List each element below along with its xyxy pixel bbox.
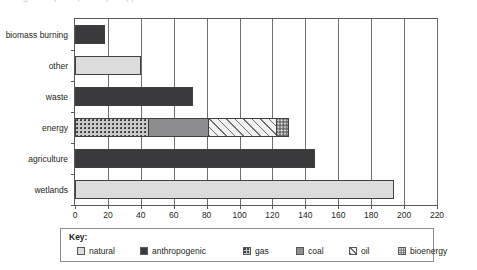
y-axis-category-label: energy (42, 123, 68, 133)
y-axis-category-label: biomass burning (6, 30, 68, 40)
gridline (305, 19, 306, 205)
y-axis-category-label: other (49, 61, 68, 71)
gridline (207, 19, 208, 205)
legend-item-label: oil (361, 246, 370, 256)
bar-energy (75, 118, 292, 137)
legend-swatch-coal-icon (296, 247, 304, 255)
x-axis-tick-label: 220 (422, 210, 452, 220)
gridline (272, 19, 273, 205)
bar-segment-anthropogenic (75, 87, 193, 106)
legend-item-bioenergy[interactable]: bioenergy (398, 246, 447, 256)
bar-segment-anthropogenic (75, 25, 105, 44)
legend-swatch-anthropogenic-icon (140, 247, 148, 255)
chart-plot-area: biomass burningotherwasteenergyagricultu… (74, 18, 438, 206)
y-axis-tick (71, 174, 75, 175)
x-axis-tick-label: 60 (159, 210, 189, 220)
x-axis-tick (108, 205, 109, 209)
gridline (141, 19, 142, 205)
legend-item-label: coal (308, 246, 324, 256)
legend-item-label: natural (89, 246, 115, 256)
legend-swatch-natural-icon (77, 247, 85, 255)
bar-waste (75, 87, 193, 106)
bar-segment-bioenergy (276, 118, 289, 137)
x-axis-tick-label: 0 (60, 210, 90, 220)
bar-other (75, 56, 141, 75)
x-axis-tick-label: 120 (257, 210, 287, 220)
x-axis-tick (371, 205, 372, 209)
y-axis-category-label: waste (46, 92, 68, 102)
gridline (404, 19, 405, 205)
x-axis-tick-label: 200 (389, 210, 419, 220)
x-axis-tick (437, 205, 438, 209)
x-axis-tick-label: 80 (192, 210, 222, 220)
legend-item-coal[interactable]: coal (296, 246, 324, 256)
x-axis-tick-label: 100 (225, 210, 255, 220)
legend-swatch-gas-icon (243, 247, 251, 255)
legend-item-oil[interactable]: oil (349, 246, 370, 256)
x-axis-tick (272, 205, 273, 209)
legend-title: Key: (69, 232, 433, 243)
x-axis-tick (240, 205, 241, 209)
x-axis-tick (75, 205, 76, 209)
bar-wetlands (75, 180, 394, 199)
y-axis-category-label: wetlands (34, 185, 68, 195)
bar-segment-gas (75, 118, 149, 137)
gridline (437, 19, 438, 205)
legend-item-label: anthropogenic (152, 246, 206, 256)
x-axis-tick-label: 180 (356, 210, 386, 220)
gridline (338, 19, 339, 205)
bar-segment-anthropogenic (75, 149, 315, 168)
bar-agriculture (75, 149, 315, 168)
x-axis-tick-label: 140 (290, 210, 320, 220)
legend-item-natural[interactable]: natural (77, 246, 115, 256)
bar-segment-oil (208, 118, 277, 137)
x-axis-tick-label: 160 (323, 210, 353, 220)
bar-segment-coal (148, 118, 209, 137)
bar-biomass-burning (75, 25, 105, 44)
y-axis-category-label: agriculture (28, 154, 68, 164)
legend-swatch-bioenergy-icon (398, 247, 406, 255)
x-axis-tick (404, 205, 405, 209)
x-axis-tick (207, 205, 208, 209)
legend-item-anthropogenic[interactable]: anthropogenic (140, 246, 206, 256)
legend-items: naturalanthropogenicgascoaloilbioenergy (69, 245, 433, 257)
x-axis-tick (338, 205, 339, 209)
x-axis-tick-label: 20 (93, 210, 123, 220)
legend-item-gas[interactable]: gas (243, 246, 269, 256)
gridline (240, 19, 241, 205)
x-axis-tick (141, 205, 142, 209)
x-axis-tick (305, 205, 306, 209)
y-axis-tick (71, 112, 75, 113)
legend-item-label: bioenergy (410, 246, 447, 256)
legend-swatch-oil-icon (349, 247, 357, 255)
y-axis-tick (71, 81, 75, 82)
legend-item-label: gas (255, 246, 269, 256)
x-axis-tick (174, 205, 175, 209)
chart-legend: Key: naturalanthropogenicgascoaloilbioen… (60, 228, 434, 262)
bar-segment-natural (75, 180, 394, 199)
y-axis-tick (71, 50, 75, 51)
gridline (108, 19, 109, 205)
bar-segment-natural (75, 56, 141, 75)
clipped-caption-strip: … figure caption partially cropped … (0, 0, 477, 12)
gridline (174, 19, 175, 205)
y-axis-tick (71, 143, 75, 144)
gridline (371, 19, 372, 205)
clipped-caption-text: … figure caption partially cropped … (6, 0, 159, 2)
x-axis-tick-label: 40 (126, 210, 156, 220)
